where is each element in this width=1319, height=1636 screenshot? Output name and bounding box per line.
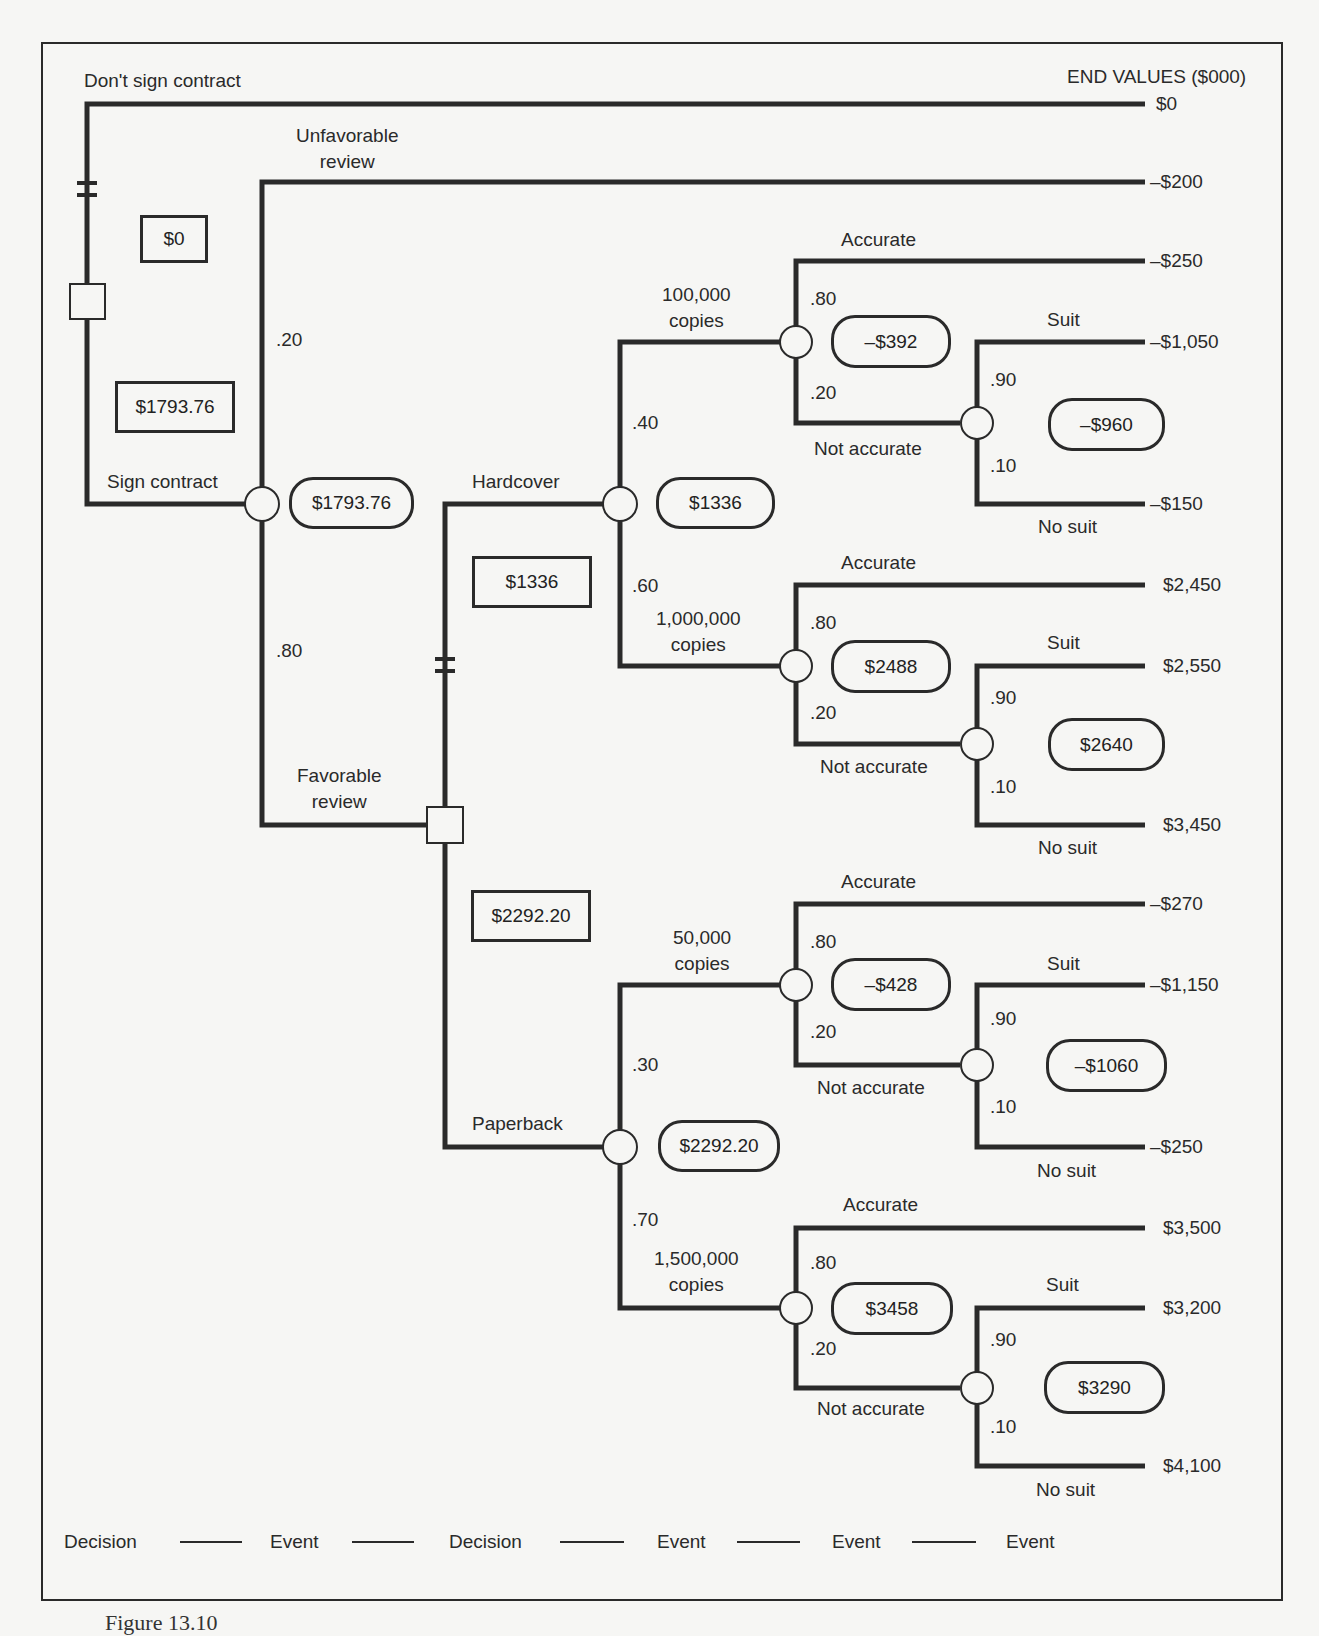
end-value: $2,450	[1163, 572, 1221, 598]
branch-label-sign: Sign contract	[107, 469, 218, 495]
probability-not-accurate: .20	[810, 1019, 836, 1045]
branch-label-suit: Suit	[1047, 630, 1080, 656]
probability-no-suit: .10	[990, 774, 1016, 800]
branch-label-favorable: Favorable review	[297, 763, 382, 814]
end-value: $3,200	[1163, 1295, 1221, 1321]
probability-pb-50k: .30	[632, 1052, 658, 1078]
branch-label-suit: Suit	[1047, 307, 1080, 333]
branch-label-hc-100k: 100,000 copies	[662, 282, 731, 333]
end-value: –$1,150	[1150, 972, 1219, 998]
legend-stage: Event	[832, 1529, 881, 1555]
end-value: $3,450	[1163, 812, 1221, 838]
legend-stage: Event	[1006, 1529, 1055, 1555]
end-value: –$250	[1150, 248, 1203, 274]
probability-no-suit: .10	[990, 1414, 1016, 1440]
branch-label-not-accurate: Not accurate	[817, 1396, 925, 1422]
probability-not-accurate: .20	[810, 700, 836, 726]
end-values-title: END VALUES ($000)	[1067, 64, 1246, 90]
branch-label-accurate: Accurate	[841, 869, 916, 895]
probability-hc-1m: .60	[632, 573, 658, 599]
event-value-review: $1793.76	[289, 477, 414, 529]
probability-not-accurate: .20	[810, 1336, 836, 1362]
end-value: –$270	[1150, 891, 1203, 917]
branch-label-not-accurate: Not accurate	[814, 436, 922, 462]
event-value-hardcover: $1336	[656, 477, 775, 529]
probability-suit: .90	[990, 1327, 1016, 1353]
branch-label-suit: Suit	[1047, 951, 1080, 977]
branch-label-unfavorable: Unfavorable review	[296, 123, 398, 174]
legend-stage: Decision	[449, 1529, 522, 1555]
decision-value-dont-sign: $0	[140, 215, 208, 263]
probability-suit: .90	[990, 367, 1016, 393]
branch-label-accurate: Accurate	[841, 227, 916, 253]
end-value: –$150	[1150, 491, 1203, 517]
end-value: –$250	[1150, 1134, 1203, 1160]
branch-label-pb-50k: 50,000 copies	[673, 925, 731, 976]
branch-label-not-accurate: Not accurate	[817, 1075, 925, 1101]
branch-label-no-suit: No suit	[1038, 514, 1097, 540]
event-value-pb-1-5m-suit: $3290	[1044, 1361, 1165, 1414]
branch-label-no-suit: No suit	[1037, 1158, 1096, 1184]
probability-accurate: .80	[810, 929, 836, 955]
branch-label-pb-1-5m: 1,500,000 copies	[654, 1246, 739, 1297]
end-value: $0	[1156, 91, 1177, 117]
decision-value-sign: $1793.76	[115, 381, 235, 433]
probability-unfavorable: .20	[276, 327, 302, 353]
event-value-hc-1m-suit: $2640	[1048, 718, 1165, 771]
event-value-hc-1m: $2488	[831, 640, 951, 693]
legend-stage: Decision	[64, 1529, 137, 1555]
probability-no-suit: .10	[990, 1094, 1016, 1120]
branch-label-suit: Suit	[1046, 1272, 1079, 1298]
decision-value-hardcover: $1336	[472, 556, 592, 608]
probability-accurate: .80	[810, 286, 836, 312]
probability-suit: .90	[990, 1006, 1016, 1032]
branch-label-accurate: Accurate	[843, 1192, 918, 1218]
branch-label-dont-sign: Don't sign contract	[84, 68, 241, 94]
probability-pb-1-5m: .70	[632, 1207, 658, 1233]
branch-label-not-accurate: Not accurate	[820, 754, 928, 780]
branch-label-no-suit: No suit	[1036, 1477, 1095, 1503]
figure-caption: Figure 13.10	[105, 1610, 217, 1636]
probability-hc-100k: .40	[632, 410, 658, 436]
branch-label-hc-1m: 1,000,000 copies	[656, 606, 741, 657]
decision-value-paperback: $2292.20	[471, 890, 591, 942]
probability-no-suit: .10	[990, 453, 1016, 479]
end-value: $3,500	[1163, 1215, 1221, 1241]
branch-label-accurate: Accurate	[841, 550, 916, 576]
end-value: $2,550	[1163, 653, 1221, 679]
event-value-hc-100k-suit: –$960	[1048, 398, 1165, 451]
event-value-paperback: $2292.20	[658, 1120, 780, 1172]
branch-label-paperback: Paperback	[472, 1111, 563, 1137]
event-value-pb-1-5m: $3458	[831, 1282, 953, 1335]
event-value-pb-50k: –$428	[831, 958, 951, 1011]
event-value-pb-50k-suit: –$1060	[1046, 1039, 1167, 1092]
branch-label-hardcover: Hardcover	[472, 469, 560, 495]
legend-stage: Event	[657, 1529, 706, 1555]
end-value: –$1,050	[1150, 329, 1219, 355]
probability-accurate: .80	[810, 610, 836, 636]
end-value: $4,100	[1163, 1453, 1221, 1479]
decision-node-icons	[70, 284, 463, 843]
probability-suit: .90	[990, 685, 1016, 711]
tree-branches	[87, 104, 1145, 1466]
end-value: –$200	[1150, 169, 1203, 195]
probability-not-accurate: .20	[810, 380, 836, 406]
probability-accurate: .80	[810, 1250, 836, 1276]
legend-stage: Event	[270, 1529, 319, 1555]
branch-label-no-suit: No suit	[1038, 835, 1097, 861]
event-value-hc-100k: –$392	[831, 315, 951, 368]
probability-favorable: .80	[276, 638, 302, 664]
